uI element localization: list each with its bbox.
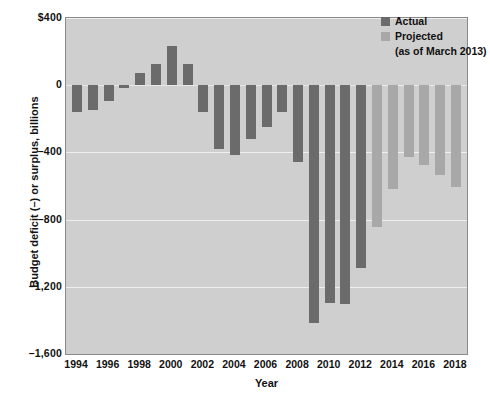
bar: [246, 85, 256, 138]
x-axis-tick-label: 2000: [159, 358, 182, 370]
bar: [340, 85, 350, 303]
legend-label: Actual: [395, 14, 427, 29]
gridline: [66, 220, 467, 221]
legend-annotation: (as of March 2013): [395, 44, 487, 59]
bar: [388, 85, 398, 188]
bar: [198, 85, 208, 112]
x-axis-tick-label: 2018: [443, 358, 466, 370]
bar: [309, 85, 319, 322]
bar: [451, 85, 461, 187]
y-axis-tick-label: –1,600: [2, 347, 62, 359]
bar: [356, 85, 366, 268]
x-axis-tick-label: 2008: [285, 358, 308, 370]
gridline: [66, 287, 467, 288]
legend-swatch-icon: [381, 32, 390, 41]
x-axis-tick-label: 2002: [191, 358, 214, 370]
x-axis-tick-label: 1998: [128, 358, 151, 370]
bar: [435, 85, 445, 175]
legend-item: Projected: [381, 29, 487, 44]
x-axis-tick-label: 2014: [380, 358, 403, 370]
x-axis-tick-label: 1994: [64, 358, 87, 370]
bar: [183, 64, 193, 86]
bar: [88, 85, 98, 109]
bar: [72, 85, 82, 112]
x-axis-tick-label: 2004: [222, 358, 245, 370]
bar: [277, 85, 287, 112]
legend-item: Actual: [381, 14, 487, 29]
bar: [325, 85, 335, 302]
x-axis-tick-label: 2016: [412, 358, 435, 370]
y-axis-title: Budget deficit (–) or surplus, billions: [28, 62, 40, 322]
x-axis: 1994199619982000200220042006200820102012…: [65, 358, 468, 374]
bar: [119, 85, 129, 88]
budget-deficit-chart: $4000–400–800–1,200–1,600 Budget deficit…: [0, 0, 490, 398]
bar: [419, 85, 429, 165]
x-axis-title: Year: [65, 377, 468, 389]
x-axis-tick-label: 1996: [96, 358, 119, 370]
bar: [293, 85, 303, 162]
x-axis-tick-label: 2010: [317, 358, 340, 370]
legend-swatch-icon: [381, 17, 390, 26]
bar: [230, 85, 240, 154]
x-axis-tick-label: 2006: [254, 358, 277, 370]
gridline: [66, 354, 467, 355]
bar: [167, 46, 177, 85]
bar: [135, 73, 145, 85]
plot-area: [65, 17, 468, 355]
bar: [404, 85, 414, 157]
x-axis-tick-label: 2012: [349, 358, 372, 370]
legend-label: Projected: [395, 29, 443, 44]
chart-legend: ActualProjected(as of March 2013): [381, 14, 487, 59]
bar: [372, 85, 382, 227]
bar: [214, 85, 224, 149]
y-axis-tick-label: $400: [2, 11, 62, 23]
bar: [262, 85, 272, 127]
bar: [151, 64, 161, 85]
bar: [104, 85, 114, 101]
